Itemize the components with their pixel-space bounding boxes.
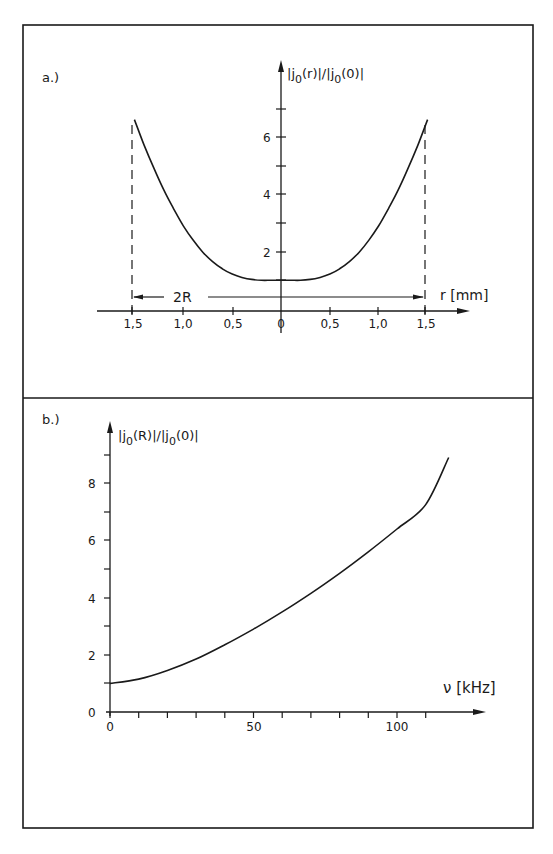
panel-a-y-axis-arrow-icon xyxy=(278,60,284,72)
panel-b-ytick-6: 6 xyxy=(88,534,96,548)
panel-a-xtick: 0,5 xyxy=(320,317,339,331)
panel-b: b.) |j0(R)|/|j0(0)| 0 2 4 6 8 xyxy=(42,412,496,734)
panel-b-x-ticks xyxy=(110,712,426,718)
panel-a-ytick-6: 6 xyxy=(263,131,271,145)
panel-a-xtick: 0 xyxy=(277,317,285,331)
panel-a-xtick: 1,5 xyxy=(123,317,142,331)
panel-a-xtick: 1,0 xyxy=(173,317,192,331)
panel-b-y-axis-label: |j0(R)|/|j0(0)| xyxy=(118,428,199,448)
panel-b-ytick-8: 8 xyxy=(88,477,96,491)
panel-a-2r-arrowhead-right-icon xyxy=(413,295,424,300)
figure-frame xyxy=(23,25,533,828)
panel-a-xtick: 1,0 xyxy=(368,317,387,331)
panel-a-label: a.) xyxy=(42,70,59,85)
panel-a: a.) |j0(r)|/|j0(0)| 2 4 6 xyxy=(42,60,488,333)
figure: a.) |j0(r)|/|j0(0)| 2 4 6 xyxy=(0,0,553,854)
panel-b-ytick-0: 0 xyxy=(88,706,96,720)
panel-a-ytick-2: 2 xyxy=(263,246,271,260)
panel-b-y-ticks xyxy=(104,455,110,683)
panel-b-xtick-100: 100 xyxy=(386,720,409,734)
panel-a-xtick: 1,5 xyxy=(416,317,435,331)
panel-b-label: b.) xyxy=(42,412,59,427)
panel-b-curve xyxy=(110,458,449,684)
panel-a-xtick: 0,5 xyxy=(223,317,242,331)
panel-b-ytick-2: 2 xyxy=(88,649,96,663)
panel-b-x-axis-arrow-icon xyxy=(473,709,486,715)
panel-a-x-axis-arrow-icon xyxy=(457,308,470,314)
panel-b-xtick-0: 0 xyxy=(106,720,114,734)
panel-b-y-axis-arrow-icon xyxy=(107,421,113,433)
panel-b-xtick-50: 50 xyxy=(246,720,261,734)
panel-b-ytick-4: 4 xyxy=(88,592,96,606)
panel-a-y-axis-label: |j0(r)|/|j0(0)| xyxy=(287,66,364,86)
panel-a-ytick-4: 4 xyxy=(263,188,271,202)
panel-b-x-axis-label: ν [kHz] xyxy=(443,679,496,697)
panel-a-2r-arrowhead-left-icon xyxy=(133,295,143,300)
panel-a-2r-label: 2R xyxy=(173,289,192,305)
panel-a-x-axis-label: r [mm] xyxy=(440,287,488,303)
